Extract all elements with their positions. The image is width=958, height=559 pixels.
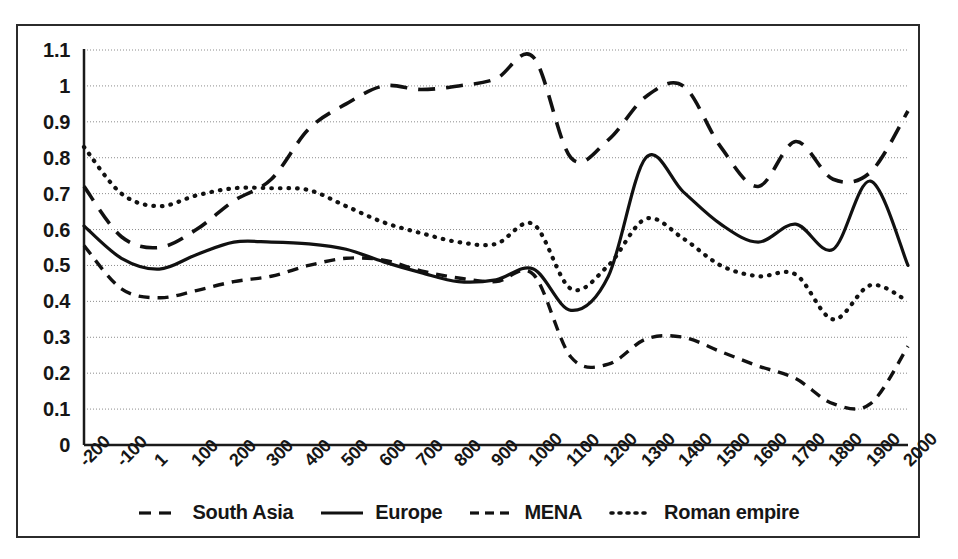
- legend-swatch-solid: [319, 506, 367, 520]
- chart-legend: South AsiaEuropeMENARoman empire: [18, 501, 918, 524]
- series-line-europe: [84, 155, 908, 311]
- legend-label: South Asia: [193, 501, 294, 524]
- y-tick-label: 0.9: [43, 112, 70, 132]
- legend-item-mena[interactable]: MENA: [468, 501, 582, 524]
- series-line-south-asia: [84, 54, 908, 248]
- y-tick-label: 0.1: [43, 399, 70, 419]
- series-line-roman-empire: [84, 147, 908, 319]
- series-line-mena: [84, 246, 908, 409]
- y-tick-label: 1: [59, 76, 70, 96]
- y-tick-label: 0.4: [43, 291, 70, 311]
- legend-label: Roman empire: [664, 501, 799, 524]
- legend-item-europe[interactable]: Europe: [319, 501, 442, 524]
- legend-label: MENA: [524, 501, 582, 524]
- chart-frame: 00.10.20.30.40.50.60.70.80.911.1 -200-10…: [16, 24, 920, 538]
- legend-swatch-long-dash: [137, 506, 185, 520]
- legend-label: Europe: [375, 501, 442, 524]
- y-tick-label: 0.5: [43, 255, 70, 275]
- legend-item-roman-empire[interactable]: Roman empire: [608, 501, 799, 524]
- legend-swatch-short-dash: [468, 506, 516, 520]
- y-tick-label: 0.6: [43, 220, 70, 240]
- plot-area: 00.10.20.30.40.50.60.70.80.911.1 -200-10…: [18, 26, 918, 536]
- legend-swatch-dotted: [608, 506, 656, 520]
- y-tick-label: 1.1: [43, 40, 70, 60]
- y-tick-label: 0.8: [43, 148, 70, 168]
- y-tick-label: 0: [59, 435, 70, 455]
- legend-item-south-asia[interactable]: South Asia: [137, 501, 294, 524]
- y-tick-label: 0.2: [43, 363, 70, 383]
- y-tick-label: 0.7: [43, 184, 70, 204]
- y-tick-label: 0.3: [43, 327, 70, 347]
